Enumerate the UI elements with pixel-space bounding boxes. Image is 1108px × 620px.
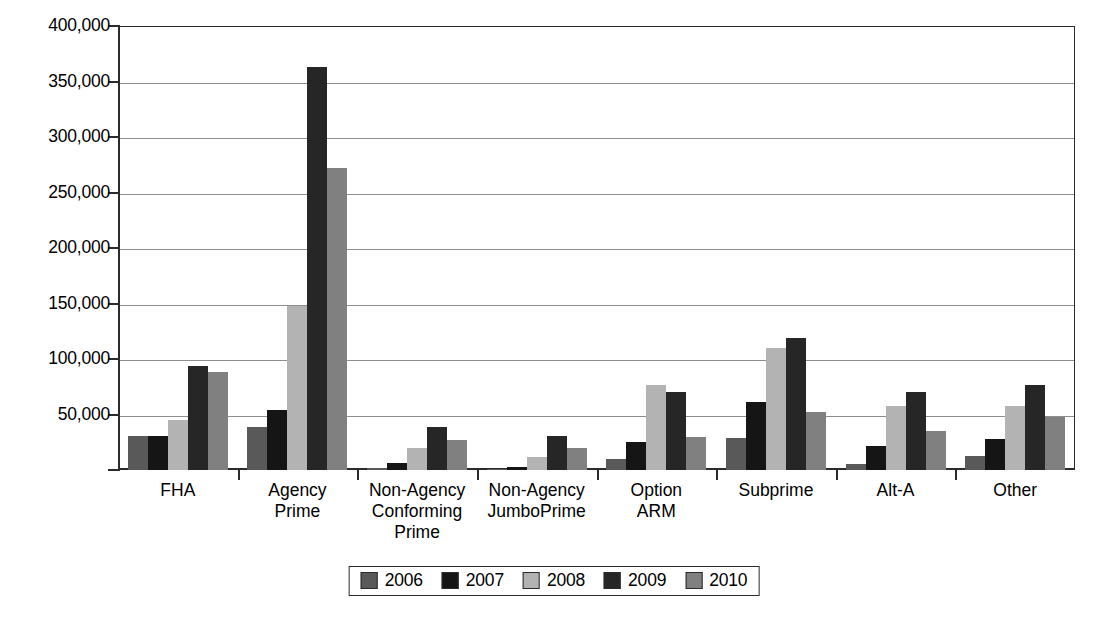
bar[interactable] xyxy=(985,439,1005,470)
legend-label: 2007 xyxy=(466,572,504,590)
x-axis-tick-mark xyxy=(716,470,718,480)
bar-group xyxy=(955,26,1075,470)
chart-legend: 20062007200820092010 xyxy=(349,566,760,596)
legend-item[interactable]: 2010 xyxy=(685,572,747,590)
bar[interactable] xyxy=(666,392,686,470)
bar[interactable] xyxy=(746,402,766,470)
bar[interactable] xyxy=(367,468,387,470)
legend-label: 2010 xyxy=(709,572,747,590)
bar[interactable] xyxy=(507,467,527,470)
y-axis: 400,000350,000300,000250,000200,000150,0… xyxy=(0,0,110,620)
bar[interactable] xyxy=(926,431,946,470)
legend-swatch-icon xyxy=(523,572,540,589)
bar-group xyxy=(118,26,238,470)
bar[interactable] xyxy=(128,436,148,470)
bar-group xyxy=(716,26,836,470)
y-axis-tick-label: 50,000 xyxy=(6,406,110,424)
bar-group xyxy=(477,26,597,470)
y-axis-tick-label: 150,000 xyxy=(6,295,110,313)
legend-swatch-icon xyxy=(604,572,621,589)
y-axis-tick-label: 100,000 xyxy=(6,350,110,368)
bar[interactable] xyxy=(527,457,547,470)
bar-group xyxy=(597,26,717,470)
bar[interactable] xyxy=(267,410,287,470)
bar[interactable] xyxy=(846,464,866,470)
x-axis-tick-mark xyxy=(597,470,599,480)
bar-group xyxy=(357,26,477,470)
legend-label: 2006 xyxy=(385,572,423,590)
bar[interactable] xyxy=(606,459,626,470)
legend-label: 2008 xyxy=(547,572,585,590)
x-axis-tick-label: Alt-A xyxy=(836,480,956,501)
legend-swatch-icon xyxy=(361,572,378,589)
bars-layer xyxy=(118,26,1075,470)
legend-item[interactable]: 2006 xyxy=(361,572,423,590)
bar[interactable] xyxy=(866,446,886,470)
bar[interactable] xyxy=(487,469,507,470)
bar[interactable] xyxy=(208,372,228,470)
legend-swatch-icon xyxy=(685,572,702,589)
bar[interactable] xyxy=(307,67,327,470)
x-axis-tick-label: Option ARM xyxy=(597,480,717,522)
legend-item[interactable]: 2009 xyxy=(604,572,666,590)
bar[interactable] xyxy=(786,338,806,470)
y-axis-tick-label: 250,000 xyxy=(6,184,110,202)
legend-label: 2009 xyxy=(628,572,666,590)
bar[interactable] xyxy=(686,437,706,470)
bar[interactable] xyxy=(646,385,666,470)
legend-swatch-icon xyxy=(442,572,459,589)
bar[interactable] xyxy=(427,427,447,470)
bar[interactable] xyxy=(247,427,267,470)
bar[interactable] xyxy=(547,436,567,470)
x-axis-tick-label: Non-Agency Conforming Prime xyxy=(357,480,477,543)
y-axis-tick-label: 400,000 xyxy=(6,17,110,35)
x-axis-tick-mark xyxy=(238,470,240,480)
bar[interactable] xyxy=(906,392,926,470)
bar[interactable] xyxy=(567,448,587,470)
bar[interactable] xyxy=(188,366,208,470)
y-axis-tick-label: 200,000 xyxy=(6,239,110,257)
x-axis-tick-label: FHA xyxy=(118,480,238,501)
x-axis-tick-label: Non-Agency JumboPrime xyxy=(477,480,597,522)
bar[interactable] xyxy=(1025,385,1045,470)
x-axis-tick-label: Subprime xyxy=(716,480,836,501)
x-axis: FHAAgency PrimeNon-Agency Conforming Pri… xyxy=(118,480,1075,546)
bar[interactable] xyxy=(1045,417,1065,470)
bar[interactable] xyxy=(168,420,188,470)
x-axis-tick-mark xyxy=(477,470,479,480)
legend-item[interactable]: 2007 xyxy=(442,572,504,590)
bar[interactable] xyxy=(287,306,307,470)
y-axis-tick-label: 300,000 xyxy=(6,128,110,146)
legend-item[interactable]: 2008 xyxy=(523,572,585,590)
bar[interactable] xyxy=(148,436,168,470)
bar[interactable] xyxy=(766,348,786,470)
bar-group xyxy=(836,26,956,470)
bar-group xyxy=(238,26,358,470)
bar[interactable] xyxy=(886,406,906,470)
bar[interactable] xyxy=(965,456,985,470)
bar[interactable] xyxy=(1005,406,1025,470)
chart-page: 400,000350,000300,000250,000200,000150,0… xyxy=(0,0,1108,620)
x-axis-tick-mark xyxy=(955,470,957,480)
bar[interactable] xyxy=(407,448,427,470)
bar[interactable] xyxy=(806,412,826,470)
bar[interactable] xyxy=(387,463,407,470)
x-axis-tick-mark xyxy=(836,470,838,480)
bar[interactable] xyxy=(447,440,467,470)
x-axis-tick-label: Agency Prime xyxy=(238,480,358,522)
x-axis-tick-mark xyxy=(357,470,359,480)
y-axis-tick-label: 350,000 xyxy=(6,73,110,91)
bar[interactable] xyxy=(626,442,646,470)
x-axis-tick-label: Other xyxy=(955,480,1075,501)
bar[interactable] xyxy=(726,438,746,470)
bar[interactable] xyxy=(327,168,347,470)
